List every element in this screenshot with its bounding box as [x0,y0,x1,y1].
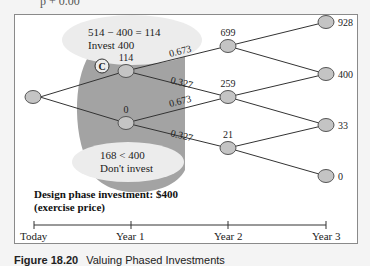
timeline-axis [34,221,326,229]
y2-dd-value: 21 [223,129,233,140]
y3-udd-value: 33 [338,120,348,131]
tick-year1: Year 1 [116,230,145,242]
y3-uuu-value: 928 [338,17,353,28]
figure-caption: Figure 18.20Valuing Phased Investments [14,254,225,266]
tick-year3: Year 3 [312,230,341,242]
y1-up-value: 114 [119,52,134,63]
y2-ud-value: 259 [221,78,236,89]
design-phase-line1: Design phase investment: $400 [34,188,178,200]
invest-decision-text: Invest 400 [88,39,135,51]
node-y2-uu [220,40,236,53]
caption-label: Figure 18.20 [14,254,78,266]
node-today [25,91,41,104]
design-phase-line2: (exercise price) [34,201,105,214]
node-y1-down [118,117,134,130]
dont-decision-text: Don't invest [100,162,153,174]
node-y1-up [118,65,134,78]
tick-year2: Year 2 [214,230,243,242]
node-y3-ddd [318,170,334,183]
caption-text: Valuing Phased Investments [86,254,225,266]
y2-uu-value: 699 [221,27,236,38]
node-y3-udd [318,119,334,132]
node-y2-ud [220,91,236,104]
dont-calc-text: 168 < 400 [100,149,145,161]
node-y3-uuu [318,16,334,29]
node-y2-dd [220,142,236,155]
y3-ddd-value: 0 [338,171,343,182]
y3-uud-value: 400 [338,69,353,80]
node-y3-uud [318,68,334,81]
invest-calc-text: 514 − 400 = 114 [88,26,161,38]
marker-c-label: C [98,61,105,72]
y1-down-value: 0 [124,104,129,115]
tick-today: Today [20,230,48,242]
